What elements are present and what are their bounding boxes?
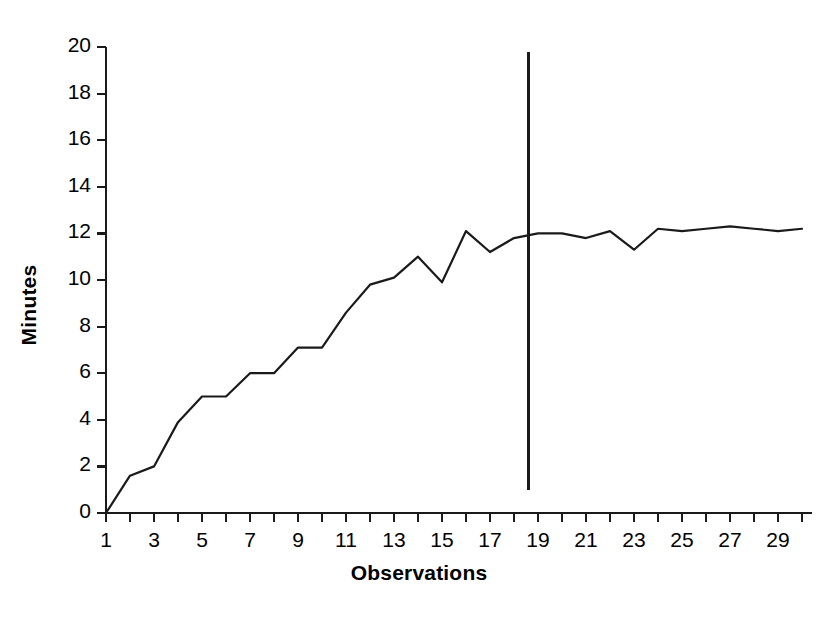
line-chart-plot <box>0 0 838 620</box>
y-tick-label: 0 <box>41 499 91 523</box>
x-tick-label: 1 <box>86 528 126 552</box>
y-tick-label: 4 <box>41 406 91 430</box>
x-tick-label: 23 <box>614 528 654 552</box>
chart-tick-marks <box>97 47 802 522</box>
y-tick-label: 10 <box>41 266 91 290</box>
x-tick-label: 17 <box>470 528 510 552</box>
x-tick-label: 7 <box>230 528 270 552</box>
y-tick-label: 14 <box>41 173 91 197</box>
x-tick-label: 15 <box>422 528 462 552</box>
chart-axes <box>106 47 812 513</box>
data-series-line <box>106 226 802 513</box>
x-tick-label: 25 <box>662 528 702 552</box>
x-tick-label: 13 <box>374 528 414 552</box>
x-tick-label: 19 <box>518 528 558 552</box>
chart-container: 02468101214161820 1357911131517192123252… <box>0 0 838 620</box>
x-tick-label: 9 <box>278 528 318 552</box>
x-tick-label: 3 <box>134 528 174 552</box>
series-line-1 <box>106 226 802 513</box>
y-tick-label: 12 <box>41 219 91 243</box>
y-axis-title: Minutes <box>17 235 41 375</box>
x-tick-label: 21 <box>566 528 606 552</box>
x-tick-label: 11 <box>326 528 366 552</box>
x-tick-label: 5 <box>182 528 222 552</box>
y-tick-label: 6 <box>41 359 91 383</box>
x-tick-label: 29 <box>758 528 798 552</box>
y-tick-label: 8 <box>41 313 91 337</box>
y-tick-label: 2 <box>41 452 91 476</box>
y-tick-label: 18 <box>41 80 91 104</box>
x-axis-title: Observations <box>0 561 838 585</box>
y-tick-label: 16 <box>41 126 91 150</box>
x-tick-label: 27 <box>710 528 750 552</box>
y-tick-label: 20 <box>41 33 91 57</box>
